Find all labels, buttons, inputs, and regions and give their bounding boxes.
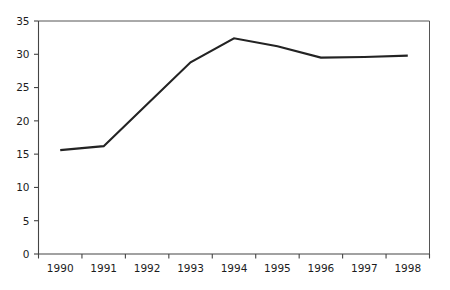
y-tick-label: 10 (16, 181, 29, 193)
x-tick-label: 1993 (177, 262, 204, 274)
chart-canvas: 05101520253035 1990199119921993199419951… (0, 0, 450, 290)
y-tick-label: 30 (16, 48, 29, 60)
y-tick-label: 20 (16, 115, 29, 127)
y-tick-label: 0 (23, 248, 30, 260)
line-chart: 05101520253035 1990199119921993199419951… (0, 0, 450, 290)
y-tick-label: 15 (16, 148, 29, 160)
x-tick-label: 1995 (264, 262, 291, 274)
x-tick-label: 1992 (134, 262, 161, 274)
x-tick-label: 1991 (90, 262, 117, 274)
y-tick-label: 35 (16, 15, 29, 27)
x-tick-label: 1998 (394, 262, 421, 274)
x-tick-label: 1996 (308, 262, 335, 274)
y-tick-label: 5 (23, 215, 30, 227)
x-tick-label: 1990 (47, 262, 74, 274)
y-tick-label: 25 (16, 81, 29, 93)
x-tick-label: 1997 (351, 262, 378, 274)
x-tick-label: 1994 (221, 262, 248, 274)
x-axis-tick-labels: 199019911992199319941995199619971998 (47, 262, 421, 274)
